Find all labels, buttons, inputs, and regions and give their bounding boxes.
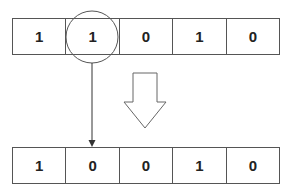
connector-arrow-icon [89,63,96,147]
diagram-overlay [0,0,287,192]
hollow-down-arrow-icon [124,73,166,128]
highlight-circle-icon [66,11,118,63]
